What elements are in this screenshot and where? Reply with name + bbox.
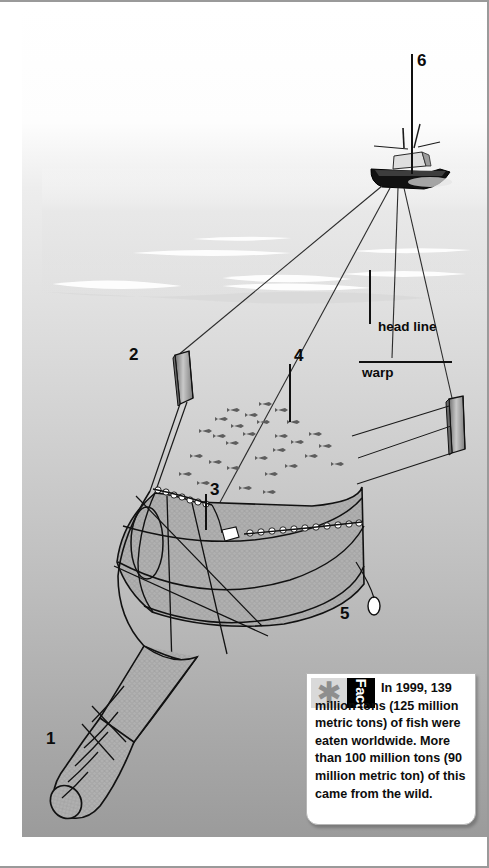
warp-rule xyxy=(359,361,452,363)
callout-6-number: 6 xyxy=(417,52,426,69)
callout-3-number: 3 xyxy=(210,481,219,498)
callout-1-number: 1 xyxy=(46,730,55,747)
fact-box: ✱ Fact In 1999, 139 million tons (125 mi… xyxy=(306,673,476,825)
callout-2-number: 2 xyxy=(129,346,138,363)
callout-4-leader xyxy=(289,364,291,422)
head-line-leader xyxy=(369,270,371,324)
callout-5-number: 5 xyxy=(340,605,349,622)
warp-label: warp xyxy=(362,366,394,380)
callout-6-leader xyxy=(411,54,413,174)
figure-page: 6 2 4 3 5 1 head line warp ✱ Fact In 199… xyxy=(0,0,489,868)
callout-4-number: 4 xyxy=(294,347,303,364)
head-line-label: head line xyxy=(378,320,437,334)
fact-box-text: In 1999, 139 million tons (125 million m… xyxy=(315,680,471,803)
fact-box-body: In 1999, 139 million tons (125 million m… xyxy=(315,681,465,801)
callout-3-leader xyxy=(205,494,207,530)
